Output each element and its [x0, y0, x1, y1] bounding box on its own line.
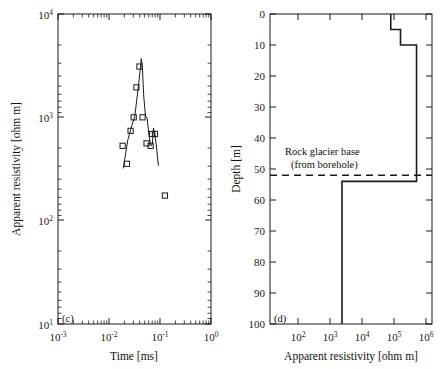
panel-c-xtick-1e0: 100 — [204, 330, 219, 343]
panel-d-xtick-1e3: 103 — [323, 330, 338, 343]
panel-d-ytick-20: 20 — [254, 70, 266, 82]
rock-glacier-base-label-line2: (from borehole) — [291, 159, 358, 171]
panel-c-xlabel: Time [ms] — [110, 350, 158, 362]
panel-d-ytick-100: 100 — [249, 318, 266, 330]
panel-d-ytick-50: 50 — [254, 163, 266, 175]
panel-d-ytick-60: 60 — [254, 194, 266, 206]
panel-d-xtick-1e6: 106 — [419, 330, 434, 343]
panel-d-ytick-30: 30 — [254, 101, 266, 113]
panel-d-ytick-70: 70 — [254, 225, 266, 237]
panel-c-xtick-1e-2: 10-2 — [100, 330, 117, 343]
panel-d: Rock glacier base (from borehole) 0 10 2… — [230, 8, 434, 363]
panel-d-label: (d) — [274, 313, 287, 325]
panel-c: 104 103 102 101 10-3 10-2 10-1 100 Time … — [10, 8, 219, 362]
panel-c-ylabel: Apparent resistivity [ohm m] — [10, 102, 23, 236]
figure-svg: 104 103 102 101 10-3 10-2 10-1 100 Time … — [0, 0, 443, 369]
panel-d-ytick-80: 80 — [254, 256, 266, 268]
panel-c-ytick-1e4: 104 — [38, 8, 53, 21]
panel-d-ytick-90: 90 — [254, 287, 266, 299]
panel-c-axes-frame — [58, 14, 211, 324]
panel-d-xtick-1e4: 104 — [355, 330, 370, 343]
panel-d-ylabel: Depth [m] — [230, 145, 243, 193]
panel-d-ytick-40: 40 — [254, 132, 266, 144]
panel-d-xlabel: Apparent resistivity [ohm m] — [284, 350, 418, 363]
panel-c-ytick-1e3: 103 — [38, 111, 53, 124]
panel-d-ytick-0: 0 — [260, 8, 266, 20]
figure-container: 104 103 102 101 10-3 10-2 10-1 100 Time … — [0, 0, 443, 369]
panel-c-ytick-1e2: 102 — [38, 214, 53, 227]
panel-d-xtick-1e5: 105 — [387, 330, 402, 343]
rock-glacier-base-label-line1: Rock glacier base — [285, 146, 360, 157]
panel-c-xtick-1e-3: 10-3 — [49, 330, 66, 343]
panel-c-label: (c) — [62, 313, 74, 325]
panel-c-ytick-1e1: 101 — [38, 318, 53, 331]
panel-d-xtick-1e2: 102 — [291, 330, 306, 343]
panel-c-xtick-1e-1: 10-1 — [151, 330, 168, 343]
panel-d-ytick-10: 10 — [254, 39, 266, 51]
